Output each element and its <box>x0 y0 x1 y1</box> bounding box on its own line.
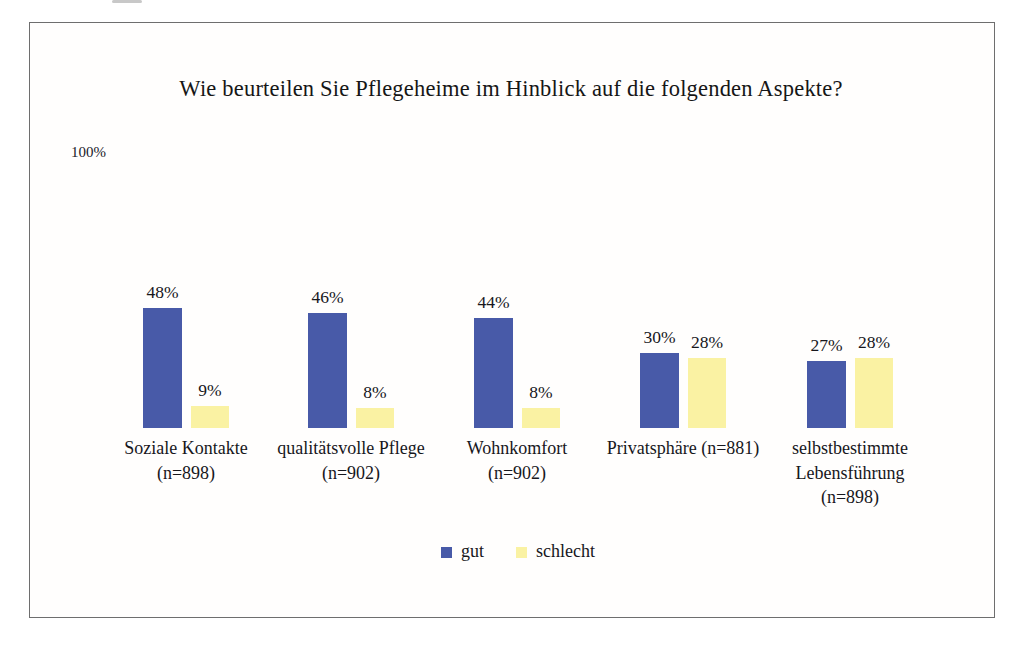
scan-artifact <box>112 0 142 3</box>
chart-frame <box>29 22 995 618</box>
legend-label-schlecht: schlecht <box>536 541 595 562</box>
legend: gut schlecht <box>29 541 993 562</box>
chart-title: Wie beurteilen Sie Pflegeheime im Hinbli… <box>29 74 993 104</box>
legend-swatch-schlecht <box>516 547 527 558</box>
legend-label-gut: gut <box>461 541 484 562</box>
y-axis-top-tick: 100% <box>71 144 106 161</box>
legend-swatch-gut <box>441 547 452 558</box>
